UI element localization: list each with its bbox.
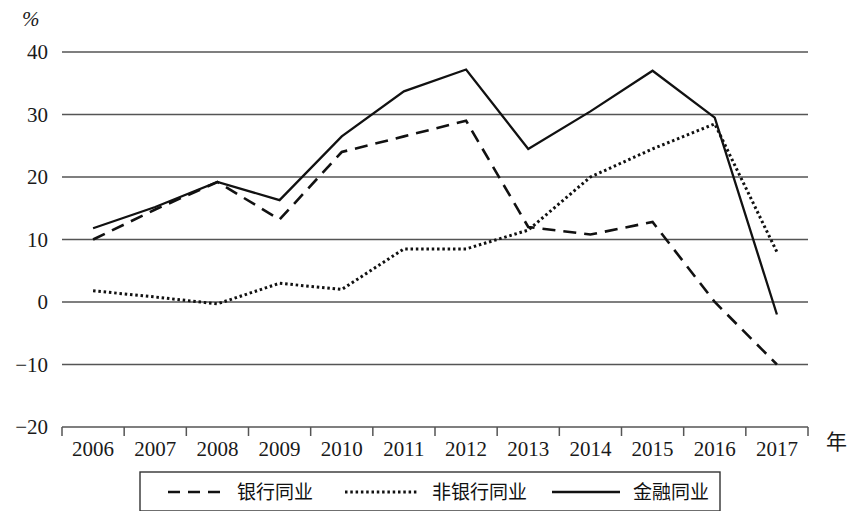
x-axis-tick-labels: 2006200720082009201020112012201320142015… bbox=[72, 437, 798, 461]
series-line-dotted bbox=[93, 124, 777, 304]
x-axis-unit-label: 年 bbox=[826, 430, 847, 454]
x-axis-tick-label: 2017 bbox=[756, 437, 798, 461]
y-axis-tick-label: 30 bbox=[27, 103, 48, 127]
y-axis-tick-labels: 403020100−10−20 bbox=[15, 40, 48, 439]
x-axis-tick-label: 2007 bbox=[134, 437, 176, 461]
gridlines bbox=[62, 52, 808, 427]
x-axis-tick-label: 2012 bbox=[445, 437, 487, 461]
x-axis-tick-label: 2009 bbox=[259, 437, 301, 461]
x-axis-tick-label: 2006 bbox=[72, 437, 114, 461]
y-axis-unit-label: % bbox=[22, 7, 40, 31]
series-line-dashed bbox=[93, 121, 777, 365]
legend-label: 金融同业 bbox=[633, 482, 709, 503]
x-axis-tick-label: 2011 bbox=[383, 437, 424, 461]
line-chart: 403020100−10−20 200620072008200920102011… bbox=[0, 0, 859, 511]
x-axis-tick-label: 2016 bbox=[694, 437, 736, 461]
x-axis-tick-label: 2015 bbox=[632, 437, 674, 461]
legend-items: 银行同业非银行同业金融同业 bbox=[168, 482, 709, 503]
x-axis-tick-label: 2010 bbox=[321, 437, 363, 461]
y-axis-tick-label: 20 bbox=[27, 165, 48, 189]
legend: 银行同业非银行同业金融同业 bbox=[140, 472, 720, 511]
x-axis-tick-label: 2008 bbox=[196, 437, 238, 461]
y-axis-tick-label: 0 bbox=[38, 290, 49, 314]
x-axis-tick-label: 2013 bbox=[507, 437, 549, 461]
x-axis-tick-label: 2014 bbox=[569, 437, 612, 461]
y-axis-tick-label: 10 bbox=[27, 228, 48, 252]
y-axis-tick-label: 40 bbox=[27, 40, 48, 64]
legend-label: 非银行同业 bbox=[432, 482, 527, 503]
chart-figure: 403020100−10−20 200620072008200920102011… bbox=[0, 0, 859, 511]
y-axis-tick-label: −20 bbox=[15, 415, 48, 439]
x-axis-ticks bbox=[62, 427, 808, 436]
legend-label: 银行同业 bbox=[237, 482, 313, 503]
y-axis-tick-label: −10 bbox=[15, 353, 48, 377]
